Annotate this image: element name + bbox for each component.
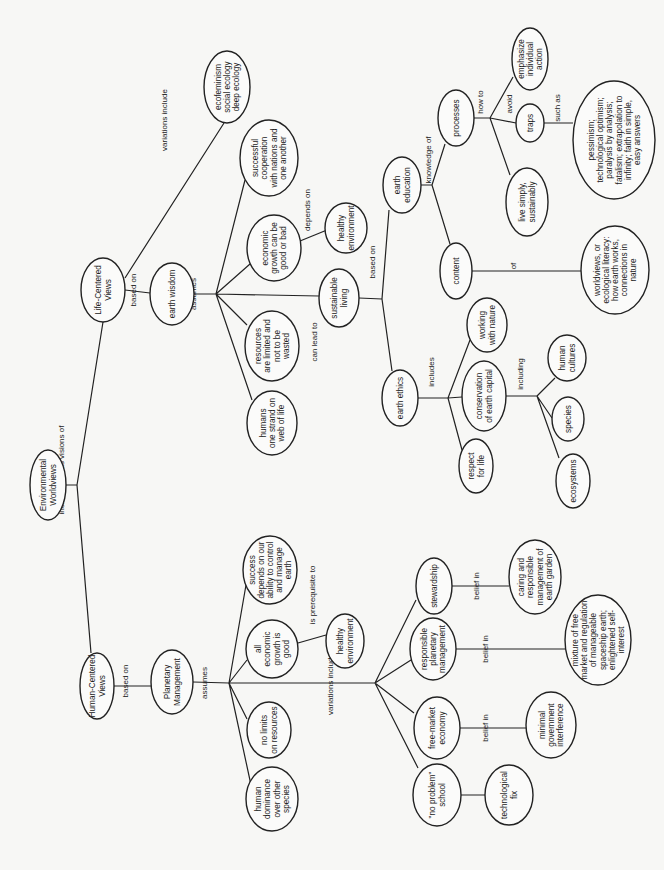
- node-label: conservationof earth capital: [475, 369, 493, 423]
- concept-node-noprob: "no problem"school: [413, 764, 461, 826]
- concept-node-emph: emphasizeindividualaction: [512, 28, 548, 90]
- concept-node-reslim: resourcesare limited andnot to bewasted: [245, 311, 299, 381]
- concept-node-caring: caring andresponsiblemanagement ofearth …: [509, 540, 561, 614]
- connector-line: [66, 322, 103, 653]
- edge-label: belief in: [481, 714, 490, 742]
- concept-node-life: Life-CenteredViews: [81, 258, 125, 322]
- concept-node-humstrand: humansone strand onweb of life: [247, 391, 297, 455]
- concept-node-pm: PlanetaryManagement: [151, 650, 193, 714]
- concept-node-success: successdepends on ourability to controla…: [243, 536, 297, 604]
- concept-node-freemkt: free-marketeconomy: [414, 697, 460, 759]
- concept-node-root: EnvironmentalWorldviews: [30, 450, 66, 520]
- edge-label: of: [509, 262, 518, 269]
- edge-label: based on: [368, 246, 377, 279]
- edge-label: how to: [476, 90, 485, 114]
- node-label: species: [564, 405, 573, 433]
- connector-line: [452, 586, 565, 795]
- edge-label: can lead to: [310, 322, 319, 362]
- concept-node-wisdom: earth wisdom: [150, 263, 194, 325]
- concept-node-conserv: conservationof earth capital: [462, 361, 506, 431]
- edge-label: assumes: [200, 667, 209, 699]
- edge-label: depends on: [303, 189, 312, 231]
- edge-label: including: [516, 358, 525, 390]
- node-label: ecofeminismsocial ecologydeep ecology: [214, 60, 241, 112]
- node-label: earth ethics: [396, 377, 405, 419]
- edge-label: based on: [121, 665, 130, 698]
- node-label: respectfor life: [467, 452, 485, 480]
- concept-node-coop: successfulcooperationwith nations andone…: [240, 120, 298, 196]
- connector-line: [298, 635, 326, 643]
- concept-map: include various visions ofbased onassume…: [0, 0, 664, 870]
- node-label: processes: [452, 99, 461, 136]
- concept-node-working: workingwith nature: [467, 298, 507, 352]
- concept-node-livesimp: live simply,sustainably: [506, 168, 548, 236]
- concept-node-hlth1: healthyenvironment: [326, 614, 364, 668]
- concept-node-hdom: humandominanceover otherspecies: [246, 767, 298, 831]
- concept-node-sustliv: sustainableliving: [319, 269, 359, 327]
- concept-node-nolim: no limitson resources: [247, 702, 291, 758]
- node-label: EnvironmentalWorldviews: [39, 459, 57, 512]
- node-label: stewardship: [430, 564, 439, 608]
- concept-node-rpm: responsibleplanetarymanagement: [410, 618, 456, 680]
- concept-node-worldv: worldviews, orecological literacy:how ea…: [581, 226, 649, 314]
- concept-node-human: Human-CenteredViews: [80, 653, 114, 719]
- edge-label: belief in: [481, 635, 490, 663]
- connector-line: [375, 600, 418, 768]
- node-label: ecosystems: [569, 459, 578, 502]
- concept-node-respect: respectfor life: [459, 439, 493, 493]
- edge-label: knowledge of: [424, 136, 433, 184]
- concept-node-pessim: pessimism;technological optimism;paralys…: [573, 81, 655, 199]
- edge-label: includes: [427, 357, 436, 386]
- concept-node-steward: stewardship: [416, 558, 452, 614]
- concept-node-econgood: economicgrowth can begood or bad: [247, 215, 301, 281]
- concept-node-traps: traps: [516, 104, 544, 142]
- node-label: humancultures: [558, 344, 576, 373]
- node-label: earth wisdom: [168, 269, 177, 318]
- concept-node-mixture: mixture of freemarket and regulationof m…: [565, 595, 631, 685]
- concept-node-ecofem: ecofeminismsocial ecologydeep ecology: [204, 51, 250, 123]
- edges-layer: [66, 77, 581, 795]
- concept-node-ecosys: ecosystems: [556, 454, 590, 508]
- concept-node-processes: processes: [438, 90, 474, 146]
- concept-node-edu: eartheducation: [383, 157, 421, 213]
- concept-node-hlth2: healthyenvironment: [325, 203, 367, 253]
- node-label: free-marketeconomy: [428, 706, 446, 749]
- node-label: live simply,sustainably: [518, 181, 536, 223]
- edge-label: is prerequisite to: [308, 565, 317, 624]
- connector-line: [506, 378, 559, 458]
- nodes-layer: EnvironmentalWorldviewsHuman-CenteredVie…: [30, 28, 655, 831]
- concept-node-ethics: earth ethics: [382, 370, 418, 426]
- edge-label: such as: [553, 94, 562, 122]
- edge-label: avoid: [505, 94, 514, 113]
- edge-label: variations include: [160, 89, 169, 151]
- node-label: traps: [526, 114, 535, 132]
- concept-node-allgrowth: alleconomicgrowth isgood: [246, 620, 298, 678]
- concept-node-species: species: [552, 397, 584, 441]
- concept-node-humcult: humancultures: [548, 335, 586, 381]
- concept-node-content: content: [440, 243, 472, 299]
- node-label: content: [452, 257, 461, 285]
- edge-label: belief in: [472, 572, 481, 600]
- concept-node-mingov: minimalgovernmentinterference: [526, 692, 576, 758]
- concept-node-techfix: technologicalfix: [485, 765, 533, 825]
- edge-label: based on: [129, 274, 138, 307]
